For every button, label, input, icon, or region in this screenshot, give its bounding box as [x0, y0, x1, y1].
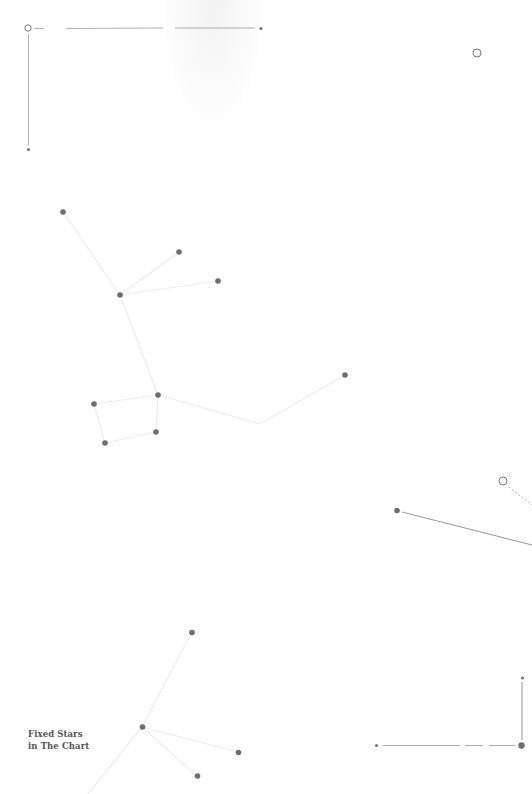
star-icon: [117, 292, 123, 298]
frame-bottom-right: [375, 676, 525, 748]
star-chart: [0, 0, 532, 794]
star-icon: [176, 249, 182, 255]
dot-icon: [259, 27, 262, 30]
star-icon: [102, 440, 108, 446]
star-icon: [153, 429, 159, 435]
star-icon: [394, 508, 400, 514]
star-icon: [155, 392, 161, 398]
open-circle-icon: [473, 49, 481, 57]
right-line-group: [394, 508, 532, 545]
chart-caption: Fixed Stars in The Chart: [28, 728, 89, 752]
star-icon: [215, 278, 221, 284]
star-chart-page: Fixed Stars in The Chart: [0, 0, 532, 794]
constellation-lower: [88, 632, 238, 794]
star-icon: [236, 750, 242, 756]
constellation-lower-stars: [140, 630, 242, 779]
dot-icon: [27, 148, 30, 151]
star-icon: [60, 209, 66, 215]
star-icon: [195, 773, 201, 779]
caption-line-1: Fixed Stars: [28, 728, 89, 740]
right-circle-group: [499, 477, 532, 505]
dot-icon: [375, 744, 378, 747]
star-icon: [342, 372, 348, 378]
star-icon: [189, 630, 195, 636]
dot-icon: [518, 742, 524, 748]
open-circle-icon: [25, 25, 31, 31]
frame-top-left: [25, 25, 263, 151]
constellation-upper-stars: [60, 209, 348, 446]
star-icon: [91, 401, 97, 407]
constellation-upper: [63, 212, 345, 443]
caption-line-2: in The Chart: [28, 740, 89, 752]
star-icon: [140, 724, 146, 730]
dot-icon: [521, 676, 524, 679]
open-circle-icon: [499, 477, 507, 485]
